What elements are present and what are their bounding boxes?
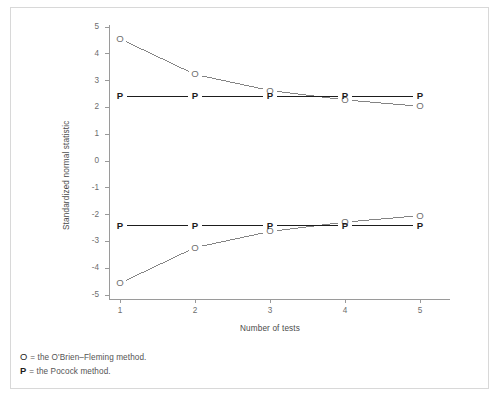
x-axis-title: Number of tests xyxy=(170,324,370,333)
y-tick-label: -5 xyxy=(77,290,99,299)
marker-obrien-fleming: O xyxy=(188,69,202,79)
y-tick-label: -4 xyxy=(77,263,99,272)
marker-pocock: P xyxy=(338,91,352,101)
series-segment xyxy=(202,233,263,246)
marker-obrien-fleming: O xyxy=(413,211,427,221)
series-lines xyxy=(126,42,413,280)
y-tick-label: -3 xyxy=(77,236,99,245)
marker-pocock: P xyxy=(263,221,277,231)
y-axis-title: Standardized normal statistic xyxy=(62,70,71,230)
marker-obrien-fleming: O xyxy=(113,34,127,44)
y-tick-label: -2 xyxy=(77,210,99,219)
legend-item-pocock: P = the Pocock method. xyxy=(20,364,320,378)
series-segment xyxy=(277,223,338,231)
legend-label-pocock: = the Pocock method. xyxy=(29,365,110,378)
series-segment xyxy=(352,100,413,105)
y-tick-label: 0 xyxy=(77,156,99,165)
y-tick-label: 1 xyxy=(77,129,99,138)
legend-item-obrien-fleming: O = the O'Brien–Fleming method. xyxy=(20,350,320,364)
y-tick-label: -1 xyxy=(77,183,99,192)
plot-canvas xyxy=(0,0,499,396)
marker-pocock: P xyxy=(338,221,352,231)
marker-obrien-fleming: O xyxy=(413,101,427,111)
series-segment xyxy=(126,251,188,281)
series-segment xyxy=(352,216,413,221)
x-tick-label: 5 xyxy=(410,306,430,315)
marker-pocock: P xyxy=(413,91,427,101)
plot-area: 543210-1-2-3-4-5 12345 OOOOOPPPPPOOOOOPP… xyxy=(0,0,499,396)
marker-pocock: P xyxy=(188,221,202,231)
series-segment xyxy=(277,91,338,99)
y-tick-label: 3 xyxy=(77,76,99,85)
y-tick-label: 5 xyxy=(77,22,99,31)
marker-pocock: P xyxy=(188,91,202,101)
x-tick-label: 3 xyxy=(260,306,280,315)
x-tick-label: 4 xyxy=(335,306,355,315)
marker-obrien-fleming: O xyxy=(113,278,127,288)
legend-key-o: O xyxy=(20,350,27,363)
legend: O = the O'Brien–Fleming method. P = the … xyxy=(20,350,320,378)
x-tick-label: 2 xyxy=(185,306,205,315)
marker-obrien-fleming: O xyxy=(188,243,202,253)
series-segment xyxy=(202,76,263,89)
marker-pocock: P xyxy=(263,91,277,101)
figure-container: 543210-1-2-3-4-5 12345 OOOOOPPPPPOOOOOPP… xyxy=(0,0,499,396)
marker-pocock: P xyxy=(113,91,127,101)
y-tick-label: 4 xyxy=(77,49,99,58)
marker-pocock: P xyxy=(113,221,127,231)
series-segment xyxy=(126,42,188,72)
marker-pocock: P xyxy=(413,221,427,231)
legend-key-p: P xyxy=(20,364,26,377)
x-tick-label: 1 xyxy=(110,306,130,315)
axis-lines xyxy=(105,25,450,303)
y-tick-label: 2 xyxy=(77,102,99,111)
legend-label-obrien-fleming: = the O'Brien–Fleming method. xyxy=(30,351,146,364)
